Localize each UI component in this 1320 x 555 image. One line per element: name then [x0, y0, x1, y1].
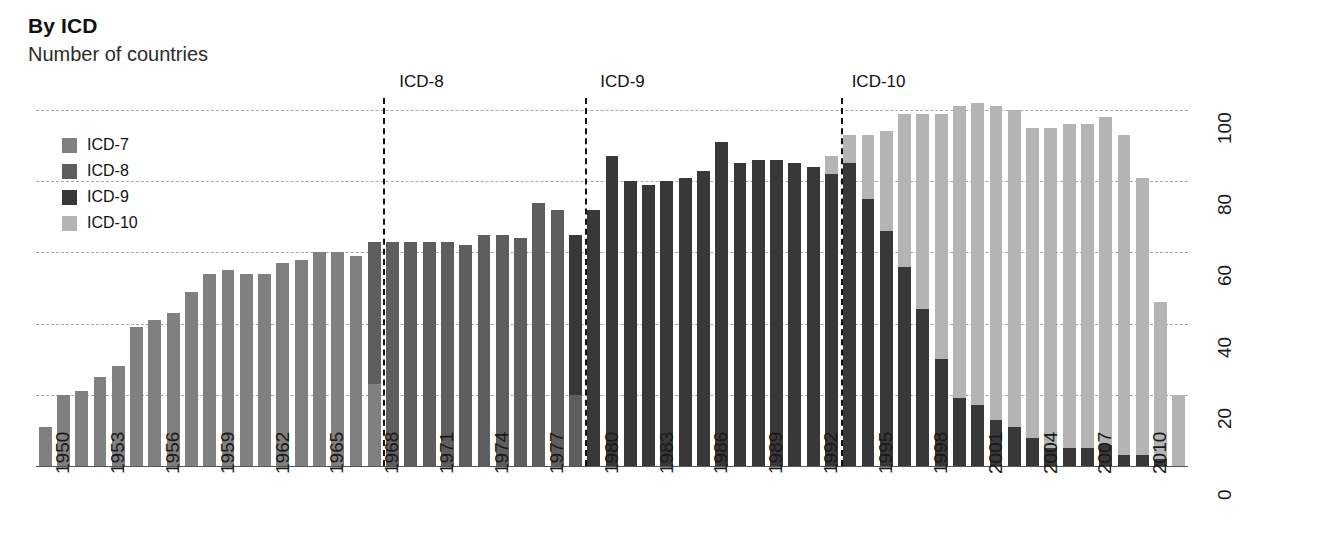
bar-segment-icd-9-1987	[715, 142, 728, 466]
bar-1991[interactable]	[788, 163, 801, 466]
bar-1950[interactable]	[39, 427, 52, 466]
bar-segment-icd-10-2012	[1172, 395, 1185, 466]
bar-2007[interactable]	[1081, 124, 1094, 466]
bar-1989[interactable]	[752, 160, 765, 466]
bar-1993[interactable]	[825, 156, 838, 466]
bar-1979[interactable]	[569, 235, 582, 466]
bar-segment-icd-10-1993	[825, 156, 838, 174]
bar-2002[interactable]	[990, 106, 1003, 466]
bar-1990[interactable]	[770, 160, 783, 466]
bar-1965[interactable]	[313, 252, 326, 466]
bar-1977[interactable]	[532, 203, 545, 466]
bar-1994[interactable]	[843, 135, 856, 466]
bar-1978[interactable]	[551, 210, 564, 466]
bar-1964[interactable]	[295, 260, 308, 466]
bar-segment-icd-10-2009	[1118, 135, 1131, 455]
bar-segment-icd-10-2007	[1081, 124, 1094, 448]
x-tick-label-1992: 1992	[820, 432, 842, 474]
bar-1999[interactable]	[935, 114, 948, 466]
bar-1980[interactable]	[587, 210, 600, 466]
bar-segment-icd-9-2010	[1136, 455, 1149, 466]
bar-2009[interactable]	[1118, 135, 1131, 466]
bar-segment-icd-8-1971	[423, 242, 436, 466]
bar-segment-icd-9-1998	[916, 309, 929, 466]
legend-label: ICD-8	[87, 162, 129, 180]
bar-1961[interactable]	[240, 274, 253, 466]
bar-1956[interactable]	[148, 320, 161, 466]
bar-1985[interactable]	[679, 178, 692, 466]
bar-1996[interactable]	[880, 131, 893, 466]
bar-2000[interactable]	[953, 106, 966, 466]
bar-1987[interactable]	[715, 142, 728, 466]
bar-1992[interactable]	[807, 167, 820, 466]
bar-segment-icd-9-2003	[1008, 427, 1021, 466]
bar-segment-icd-10-1998	[916, 114, 929, 310]
bar-1953[interactable]	[94, 377, 107, 466]
legend-item-icd-8[interactable]: ICD-8	[62, 158, 138, 184]
plot-area: 020406080100ICD-8ICD-9ICD-10	[36, 110, 1188, 466]
bar-segment-icd-9-1990	[770, 160, 783, 466]
x-tick-label-1998: 1998	[930, 432, 952, 474]
bar-segment-icd-8-1976	[514, 238, 527, 466]
bar-2005[interactable]	[1044, 128, 1057, 466]
bar-segment-icd-9-2001	[971, 405, 984, 466]
bar-1995[interactable]	[862, 135, 875, 466]
bar-2004[interactable]	[1026, 128, 1039, 466]
bar-segment-icd-10-2004	[1026, 128, 1039, 438]
bar-2001[interactable]	[971, 103, 984, 466]
bar-segment-icd-8-1974	[478, 235, 491, 466]
bar-1981[interactable]	[606, 156, 619, 466]
bar-1959[interactable]	[203, 274, 216, 466]
bar-1997[interactable]	[898, 114, 911, 466]
bar-segment-icd-9-1997	[898, 267, 911, 466]
bar-1998[interactable]	[916, 114, 929, 466]
bar-1971[interactable]	[423, 242, 436, 466]
bar-segment-icd-9-1994	[843, 163, 856, 466]
bar-segment-icd-9-1995	[862, 199, 875, 466]
bar-1976[interactable]	[514, 238, 527, 466]
x-tick-label-1971: 1971	[436, 432, 458, 474]
x-tick-label-1950: 1950	[52, 432, 74, 474]
bar-1970[interactable]	[404, 242, 417, 466]
bar-1967[interactable]	[350, 256, 363, 466]
bar-segment-icd-8-1978	[551, 210, 564, 466]
bar-1986[interactable]	[697, 171, 710, 466]
y-tick-label-20: 20	[1214, 383, 1236, 429]
bar-segment-icd-9-1982	[624, 181, 637, 466]
bar-1973[interactable]	[459, 245, 472, 466]
y-tick-label-40: 40	[1214, 312, 1236, 358]
bar-segment-icd-7-1968	[368, 384, 381, 466]
bar-1983[interactable]	[642, 185, 655, 466]
bar-1984[interactable]	[660, 181, 673, 466]
legend-swatch-icon-icd-8	[62, 164, 77, 179]
bar-1974[interactable]	[478, 235, 491, 466]
x-tick-label-1956: 1956	[162, 432, 184, 474]
bar-segment-icd-9-1986	[697, 171, 710, 466]
bar-2012[interactable]	[1172, 395, 1185, 466]
bar-2008[interactable]	[1099, 117, 1112, 466]
bar-1988[interactable]	[734, 163, 747, 466]
bar-1982[interactable]	[624, 181, 637, 466]
y-tick-label-60: 60	[1214, 240, 1236, 286]
bar-segment-icd-10-1995	[862, 135, 875, 199]
bar-segment-icd-8-1970	[404, 242, 417, 466]
bar-segment-icd-9-2000	[953, 398, 966, 466]
bar-1958[interactable]	[185, 292, 198, 466]
bar-2006[interactable]	[1063, 124, 1076, 466]
bar-1968[interactable]	[368, 242, 381, 466]
bar-1962[interactable]	[258, 274, 271, 466]
bar-2010[interactable]	[1136, 178, 1149, 466]
bar-2003[interactable]	[1008, 110, 1021, 466]
legend-item-icd-7[interactable]: ICD-7	[62, 132, 138, 158]
legend-swatch-icon-icd-9	[62, 190, 77, 205]
bar-segment-icd-7-1953	[94, 377, 107, 466]
bar-segment-icd-9-2009	[1118, 455, 1131, 466]
legend-item-icd-10[interactable]: ICD-10	[62, 210, 138, 236]
bar-segment-icd-9-1979	[569, 235, 582, 395]
legend-swatch-icon-icd-10	[62, 216, 77, 231]
legend-item-icd-9[interactable]: ICD-9	[62, 184, 138, 210]
bar-1955[interactable]	[130, 327, 143, 466]
x-tick-label-1959: 1959	[217, 432, 239, 474]
x-tick-label-2010: 2010	[1149, 432, 1171, 474]
bar-1952[interactable]	[75, 391, 88, 466]
